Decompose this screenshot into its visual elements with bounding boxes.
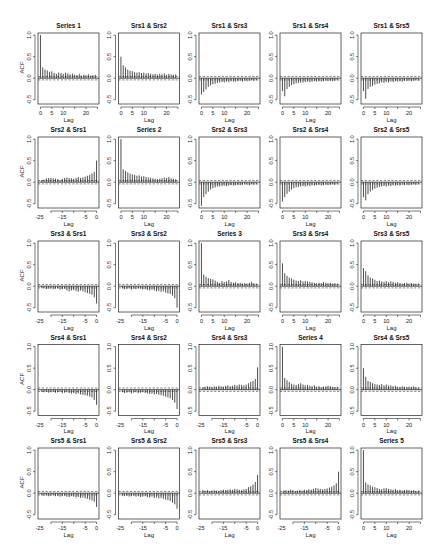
y-tick-label: 1.0 bbox=[26, 239, 32, 247]
y-tick-label: 1.0 bbox=[187, 446, 193, 454]
y-tick-label: -0.5 bbox=[349, 510, 355, 520]
x-tick-label: 0 bbox=[281, 422, 284, 428]
x-tick-label: -15 bbox=[58, 422, 66, 428]
x-tick-label: -5 bbox=[163, 318, 168, 324]
panel-title: Srs1 & Srs2 bbox=[131, 22, 167, 29]
y-tick-label: 0.0 bbox=[106, 386, 112, 394]
acf-panel: Series 1-0.50.00.51.0ACF051020Lag bbox=[19, 22, 99, 123]
x-tick-label: 5 bbox=[292, 318, 295, 324]
x-tick-label: 0 bbox=[95, 318, 98, 324]
x-tick-label: -15 bbox=[58, 318, 66, 324]
y-tick-label: 0.0 bbox=[106, 282, 112, 290]
y-tick-label: 0.0 bbox=[187, 74, 193, 82]
x-tick-label: -25 bbox=[277, 525, 285, 531]
x-tick-label: 20 bbox=[406, 214, 412, 220]
y-tick-label: -0.5 bbox=[26, 303, 32, 313]
y-tick-label: -0.5 bbox=[106, 303, 112, 313]
x-tick-label: -15 bbox=[139, 525, 147, 531]
y-tick-label: 0.5 bbox=[268, 157, 274, 165]
acf-panel: Srs1 & Srs3-0.50.00.51.0051020Lag bbox=[187, 22, 261, 123]
x-tick-label: 20 bbox=[163, 214, 169, 220]
x-tick-label: -5 bbox=[83, 318, 88, 324]
x-axis-label: Lag bbox=[386, 325, 396, 331]
panel-title: Series 1 bbox=[56, 22, 81, 29]
x-tick-label: 5 bbox=[373, 110, 376, 116]
y-tick-label: 0.5 bbox=[26, 261, 32, 269]
panel-title: Srs4 & Srs5 bbox=[374, 334, 410, 341]
panel-title: Srs4 & Srs3 bbox=[212, 334, 248, 341]
x-tick-label: 20 bbox=[163, 110, 169, 116]
x-axis-label: Lag bbox=[305, 117, 315, 123]
y-tick-label: 0.0 bbox=[26, 74, 32, 82]
x-tick-label: 0 bbox=[281, 110, 284, 116]
x-axis-label: Lag bbox=[305, 325, 315, 331]
x-tick-label: 5 bbox=[211, 318, 214, 324]
x-tick-label: -5 bbox=[83, 214, 88, 220]
x-tick-label: -15 bbox=[58, 214, 66, 220]
acf-panel: Srs5 & Srs1-0.50.00.51.0ACF-25-15-50Lag bbox=[19, 437, 99, 538]
x-tick-label: 0 bbox=[362, 525, 365, 531]
acf-panel: Srs5 & Srs4-0.50.00.51.0-25-15-50Lag bbox=[268, 437, 342, 538]
y-tick-label: 0.0 bbox=[349, 489, 355, 497]
x-tick-label: 20 bbox=[244, 318, 250, 324]
y-tick-label: 0.0 bbox=[106, 74, 112, 82]
y-tick-label: -0.5 bbox=[187, 199, 193, 209]
x-tick-label: -15 bbox=[300, 525, 308, 531]
acf-panel: Srs3 & Srs4-0.50.00.51.0051020Lag bbox=[268, 230, 342, 331]
panels-group: Series 1-0.50.00.51.0ACF051020LagSrs1 & … bbox=[19, 22, 422, 538]
y-tick-label: 0.0 bbox=[26, 386, 32, 394]
x-tick-label: 5 bbox=[131, 214, 134, 220]
y-tick-label: 0.0 bbox=[268, 178, 274, 186]
y-tick-label: -0.5 bbox=[187, 406, 193, 416]
y-tick-label: -0.5 bbox=[187, 303, 193, 313]
y-tick-label: -0.5 bbox=[349, 303, 355, 313]
acf-panel: Srs4 & Srs3-0.50.00.51.0-25-15-50Lag bbox=[187, 334, 261, 435]
x-tick-label: 10 bbox=[302, 422, 308, 428]
panel-frame bbox=[119, 33, 180, 104]
y-tick-label: -0.5 bbox=[26, 510, 32, 520]
acf-panel: Series 3-0.50.00.51.0051020Lag bbox=[187, 230, 261, 331]
y-tick-label: 1.0 bbox=[26, 135, 32, 143]
acf-panel: Srs2 & Srs3-0.50.00.51.0051020Lag bbox=[187, 126, 261, 227]
x-tick-label: 10 bbox=[221, 110, 227, 116]
x-tick-label: 10 bbox=[383, 214, 389, 220]
x-tick-label: 20 bbox=[83, 110, 89, 116]
y-tick-label: -0.5 bbox=[187, 510, 193, 520]
panel-frame bbox=[38, 345, 99, 416]
y-tick-label: 0.5 bbox=[26, 364, 32, 372]
x-tick-label: -5 bbox=[163, 422, 168, 428]
x-tick-label: -25 bbox=[116, 318, 124, 324]
y-tick-label: 0.5 bbox=[268, 468, 274, 476]
x-tick-label: 0 bbox=[200, 318, 203, 324]
y-tick-label: 0.5 bbox=[187, 157, 193, 165]
x-tick-label: 5 bbox=[373, 214, 376, 220]
y-tick-label: 0.0 bbox=[187, 178, 193, 186]
x-tick-label: 0 bbox=[200, 110, 203, 116]
x-axis-label: Lag bbox=[386, 221, 396, 227]
x-axis-label: Lag bbox=[305, 221, 315, 227]
y-tick-label: 0.0 bbox=[26, 178, 32, 186]
acf-matrix-chart: Series 1-0.50.00.51.0ACF051020LagSrs1 & … bbox=[0, 0, 442, 554]
panel-frame bbox=[199, 33, 260, 104]
x-tick-label: 10 bbox=[221, 318, 227, 324]
y-tick-label: 1.0 bbox=[26, 446, 32, 454]
x-axis-label: Lag bbox=[224, 325, 234, 331]
x-tick-label: -25 bbox=[35, 422, 43, 428]
y-tick-label: -0.5 bbox=[187, 95, 193, 105]
y-tick-label: 1.0 bbox=[106, 446, 112, 454]
y-tick-label: 0.0 bbox=[349, 386, 355, 394]
panel-frame bbox=[119, 241, 180, 312]
panel-title: Srs3 & Srs4 bbox=[293, 230, 329, 237]
acf-panel: Series 5-0.50.00.51.0051020Lag bbox=[349, 437, 423, 538]
x-tick-label: 20 bbox=[325, 422, 331, 428]
x-tick-label: 0 bbox=[281, 318, 284, 324]
y-tick-label: -0.5 bbox=[106, 199, 112, 209]
acf-panel: Srs2 & Srs4-0.50.00.51.0051020Lag bbox=[268, 126, 342, 227]
y-tick-label: 0.0 bbox=[26, 282, 32, 290]
x-tick-label: 10 bbox=[302, 214, 308, 220]
x-tick-label: -25 bbox=[196, 525, 204, 531]
x-tick-label: 0 bbox=[95, 214, 98, 220]
y-tick-label: 1.0 bbox=[106, 239, 112, 247]
y-tick-label: 0.0 bbox=[187, 282, 193, 290]
x-tick-label: 5 bbox=[292, 214, 295, 220]
